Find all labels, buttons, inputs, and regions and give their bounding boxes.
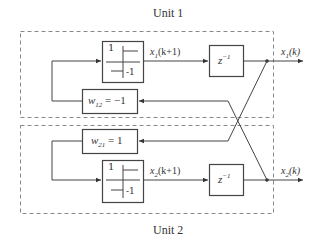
weight-w21-label: w21 = 1 — [91, 134, 123, 149]
unit2-delay-label: z−1 — [218, 172, 231, 185]
unit2-label: Unit 2 — [153, 223, 183, 238]
unit2-output-label: x2(k) — [281, 165, 300, 179]
unit2-sign-bottom-value: -1 — [126, 186, 135, 196]
unit1-sign-top-value: 1 — [108, 42, 114, 53]
unit1-label: Unit 1 — [153, 6, 183, 21]
diagram-canvas — [0, 0, 321, 244]
unit1-delay-label: z−1 — [218, 53, 231, 66]
unit1-sign-bottom-value: -1 — [126, 67, 135, 77]
unit2-next-state-label: x2(k+1) — [150, 165, 180, 179]
unit1-output-label: x1(k) — [281, 46, 300, 60]
weight-w12-label: w12 = −1 — [88, 94, 126, 109]
unit2-sign-top-value: 1 — [108, 161, 114, 172]
unit1-next-state-label: x1(k+1) — [150, 46, 180, 60]
